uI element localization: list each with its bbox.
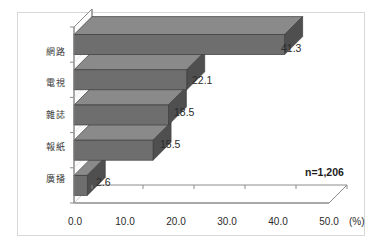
ytick-label-2: 雜誌	[24, 108, 66, 121]
bar-front-face-2	[74, 105, 168, 125]
bar-front-face-0	[74, 35, 285, 55]
bar-value-label-0: 41.3	[281, 42, 301, 54]
xtick-label-1: 10.0	[110, 216, 140, 227]
bar-front-face-3	[74, 140, 153, 160]
bar-value-label-1: 22.1	[192, 74, 212, 86]
bar-3	[74, 122, 171, 160]
chart-figure: 網路 電視 雜誌 報紙 廣播 41.3 22.1 18.5 15.5 2.6 0…	[0, 0, 382, 252]
bar-front-face-4	[74, 175, 87, 195]
xaxis-unit-label: (%)	[349, 216, 365, 227]
ytick-label-0: 網路	[24, 45, 66, 58]
bar-top-face-0	[74, 17, 303, 35]
bar-2	[74, 87, 186, 125]
ytick-label-1: 電視	[24, 76, 66, 89]
xtick-label-3: 30.0	[212, 216, 242, 227]
bar-0	[74, 17, 303, 55]
bar-front-face-1	[74, 70, 187, 90]
chart-floor-plane	[74, 185, 347, 203]
ytick-label-4: 廣播	[24, 172, 66, 185]
ytick-label-3: 報紙	[24, 140, 66, 153]
xtick-label-4: 40.0	[263, 216, 293, 227]
bar-value-label-4: 2.6	[96, 176, 111, 188]
chart-canvas	[0, 0, 382, 252]
bar-value-label-3: 15.5	[160, 138, 180, 150]
xtick-label-0: 0.0	[60, 216, 90, 227]
xtick-label-2: 20.0	[161, 216, 191, 227]
bar-1	[74, 52, 205, 90]
xtick-label-5: 50.0	[314, 216, 344, 227]
sample-size-annotation: n=1,206	[305, 166, 344, 178]
bar-value-label-2: 18.5	[174, 106, 194, 118]
